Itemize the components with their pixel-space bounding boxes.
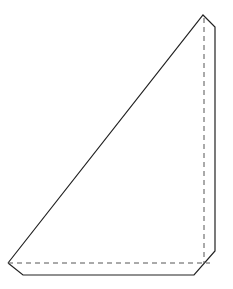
paper-outline: [8, 15, 215, 275]
fold-lines: [8, 18, 210, 263]
folding-diagram: [0, 0, 233, 289]
